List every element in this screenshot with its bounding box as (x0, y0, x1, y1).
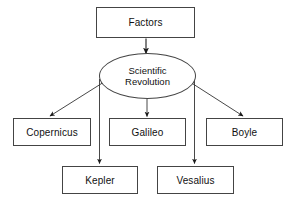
node-scientific-revolution-label: Scientific Revolution (125, 65, 170, 87)
edge-scientific-revolution-to-copernicus (50, 82, 104, 116)
node-galileo-label: Galileo (132, 127, 164, 138)
node-vesalius[interactable]: Vesalius (157, 166, 234, 194)
node-boyle[interactable]: Boyle (206, 118, 283, 146)
node-galileo[interactable]: Galileo (109, 118, 186, 146)
edge-scientific-revolution-to-boyle (190, 82, 243, 116)
node-boyle-label: Boyle (232, 127, 258, 138)
node-scientific-revolution[interactable]: Scientific Revolution (99, 53, 196, 99)
node-kepler-label: Kepler (85, 175, 115, 186)
node-factors[interactable]: Factors (96, 7, 195, 38)
node-factors-label: Factors (128, 17, 162, 28)
node-copernicus[interactable]: Copernicus (13, 118, 91, 146)
node-vesalius-label: Vesalius (176, 175, 214, 186)
diagram-canvas: Factors Scientific Revolution Copernicus… (0, 0, 295, 207)
node-kepler[interactable]: Kepler (62, 166, 138, 194)
node-copernicus-label: Copernicus (26, 127, 78, 138)
